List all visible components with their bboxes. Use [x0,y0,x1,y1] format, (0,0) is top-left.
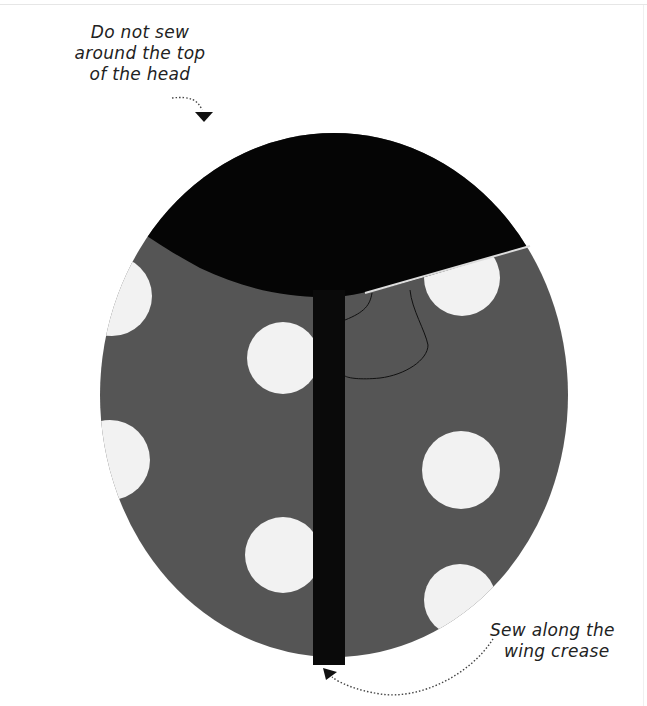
annotation-line: around the top [40,43,240,64]
wing-crease-strip [313,290,345,665]
arrow-down-icon [195,112,213,122]
annotation-line: Sew along the [490,620,640,641]
dot [70,420,150,500]
ladybug-illustration [0,0,647,706]
annotation-bottom: Sew along the wing crease [490,620,640,662]
annotation-line: wing crease [490,641,640,662]
annotation-line: Do not sew [40,22,240,43]
dot [422,431,500,509]
dot [424,564,496,636]
annotation-top: Do not sew around the top of the head [40,22,240,85]
dotted-arrow-line [172,98,202,111]
annotation-line: of the head [40,64,240,85]
dot [245,517,321,593]
dot [247,322,319,394]
dot [72,256,152,336]
